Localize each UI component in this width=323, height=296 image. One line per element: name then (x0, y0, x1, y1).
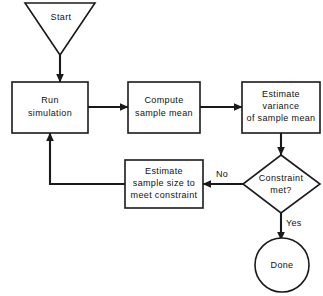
done-label: Done (271, 260, 294, 270)
edge-label-no: No (216, 169, 228, 179)
edge-label-yes: Yes (286, 218, 302, 228)
edge-estimate-sample-size-to-run-simulation (50, 133, 125, 184)
estimate-variance-label-line-2: variance (263, 101, 300, 111)
node-done[interactable]: Done (255, 238, 309, 292)
estimate-sample-size-label-line-1: Estimate (145, 166, 183, 176)
estimate-sample-size-label-line-3: meet constraint (131, 190, 198, 200)
compute-sample-mean-label-line-2: sample mean (135, 108, 193, 118)
flowchart-svg: Start Run simulation Compute sample mean… (0, 0, 323, 296)
estimate-variance-label-line-3: of sample mean (247, 113, 316, 123)
constraint-met-diamond-shape (243, 155, 320, 213)
constraint-met-label-line-2: met? (270, 185, 291, 195)
node-estimate-variance[interactable]: Estimate variance of sample mean (242, 82, 320, 133)
node-constraint-met[interactable]: Constraint met? (243, 155, 320, 213)
run-simulation-label-line-1: Run (41, 95, 59, 105)
node-start[interactable]: Start (25, 3, 95, 55)
constraint-met-label-line-1: Constraint (259, 173, 304, 183)
compute-sample-mean-label-line-1: Compute (145, 95, 184, 105)
flowchart-diagram: Start Run simulation Compute sample mean… (0, 0, 323, 296)
start-label: Start (51, 12, 72, 22)
start-triangle-shape (25, 3, 95, 55)
estimate-variance-label-line-1: Estimate (262, 89, 300, 99)
estimate-sample-size-label-line-2: sample size to (133, 178, 195, 188)
node-compute-sample-mean[interactable]: Compute sample mean (128, 82, 200, 133)
run-simulation-label-line-2: simulation (28, 108, 72, 118)
node-run-simulation[interactable]: Run simulation (12, 82, 88, 133)
node-estimate-sample-size[interactable]: Estimate sample size to meet constraint (125, 160, 203, 208)
